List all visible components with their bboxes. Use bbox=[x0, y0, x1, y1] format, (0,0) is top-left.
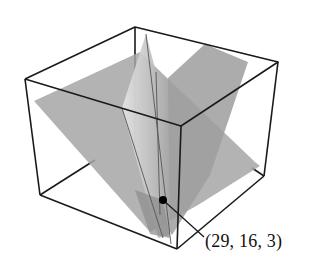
intersection-point-label: (29, 16, 3) bbox=[205, 231, 282, 252]
intersection-point bbox=[159, 196, 167, 204]
plane-b bbox=[160, 44, 248, 235]
3d-planes-diagram bbox=[0, 0, 313, 265]
